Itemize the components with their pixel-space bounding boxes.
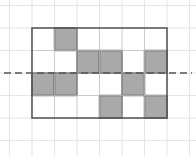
shaded-cell-r0-c1	[55, 28, 78, 51]
shaded-cell-r2-c1	[55, 73, 78, 96]
figure-canvas	[0, 0, 196, 156]
shaded-cell-r1-c5	[145, 51, 168, 74]
shaded-cell-r1-c2	[77, 51, 100, 74]
grid-figure	[0, 0, 196, 156]
shaded-cell-r3-c3	[100, 96, 123, 119]
shaded-cell-r2-c0	[32, 73, 55, 96]
shaded-cell-r2-c4	[122, 73, 145, 96]
shaded-cell-r3-c5	[145, 96, 168, 119]
shaded-cell-r1-c3	[100, 51, 123, 74]
